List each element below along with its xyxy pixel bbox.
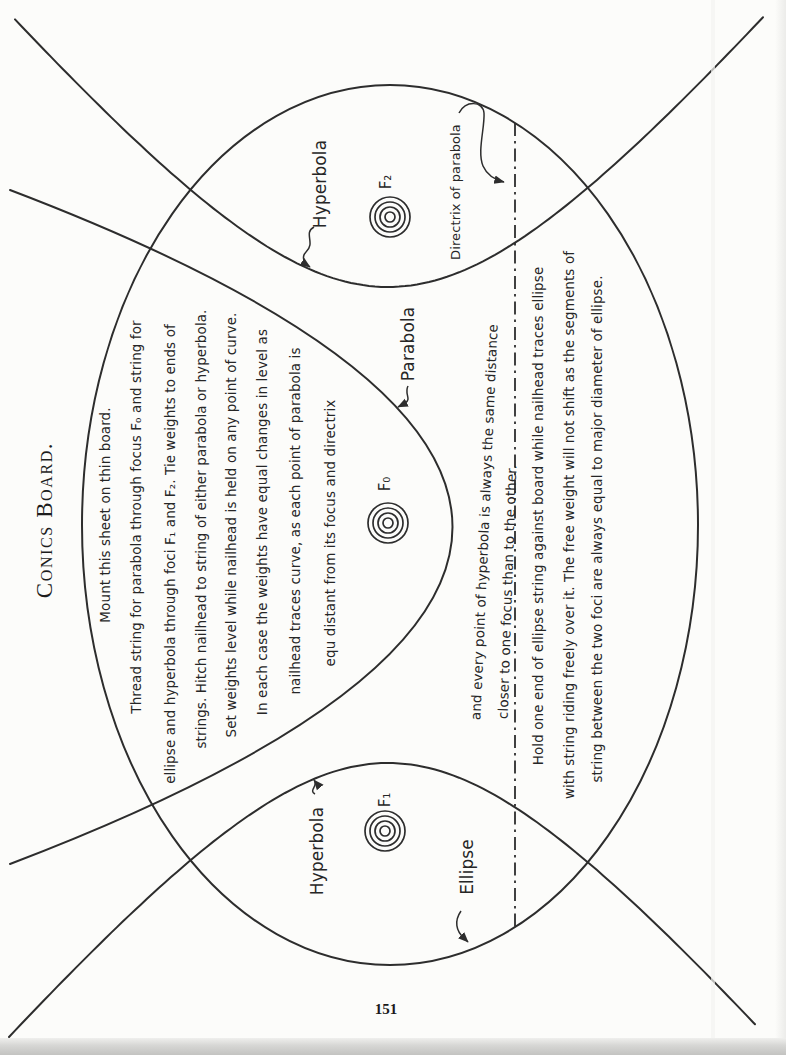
focus-f1-label: F₁ <box>376 793 394 808</box>
hyperbola-label-bottom: Hyperbola <box>307 807 327 895</box>
hyperbola-label-top: Hyperbola <box>310 140 330 228</box>
hyperbola-upper-branch <box>15 17 763 287</box>
directrix-label: Directrix of parabola <box>448 124 463 260</box>
scanned-book-page: Conics Board. Mount this sheet on thin b… <box>0 0 786 1055</box>
instruction-line: equ distant from its focus and directrix <box>322 400 338 667</box>
paper-crease <box>711 0 715 1038</box>
focus-f2-label: F₂ <box>377 175 395 190</box>
parabola-label: Parabola <box>398 307 418 381</box>
hyperbola-bottom-pointer-arrow <box>313 780 316 794</box>
focus-f0-label: F₀ <box>376 477 394 492</box>
page-number: 151 <box>375 1001 398 1018</box>
focus-f1-rings <box>365 811 405 851</box>
instruction-line: ellipse and hyperbola through foci F₁ an… <box>162 324 178 784</box>
instruction-line: Set weights level while nailhead is held… <box>223 313 239 738</box>
instruction-line: Mount this sheet on thin board. <box>97 407 113 622</box>
ellipse-pointer-arrow <box>457 911 468 942</box>
focus-f2-rings <box>370 197 410 237</box>
instruction-line: Hold one end of ellipse string against b… <box>530 267 546 766</box>
parabola-pointer-arrow <box>398 386 408 407</box>
page-title: Conics Board. <box>32 442 58 598</box>
instruction-line: with string riding freely over it. The f… <box>561 251 577 799</box>
instruction-line: nailhead traces curve, as each point of … <box>287 347 303 694</box>
instruction-line: In each case the weights have equal chan… <box>254 329 270 715</box>
instruction-line: strings. Hitch nailhead to string of eit… <box>193 309 209 748</box>
directrix-pointer-arrow <box>459 104 504 182</box>
instruction-line: Thread string for parabola through focus… <box>128 320 144 713</box>
scan-edge-right <box>775 0 786 1055</box>
ellipse-label: Ellipse <box>457 839 477 895</box>
instruction-line: string between the two foci are always e… <box>589 275 605 782</box>
hyperbola-top-pointer-arrow <box>303 227 314 267</box>
scan-edge-bottom <box>0 1038 786 1055</box>
conics-diagram <box>0 0 786 1055</box>
focus-f0-rings <box>368 503 408 543</box>
